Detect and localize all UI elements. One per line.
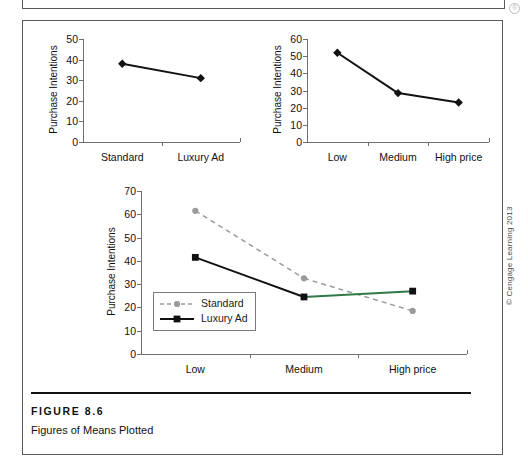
caption-divider xyxy=(31,392,471,394)
plot-area xyxy=(255,29,497,174)
data-point-marker xyxy=(174,316,181,323)
data-point-marker xyxy=(192,208,198,214)
legend-label: Standard xyxy=(201,296,244,311)
series-line-segment xyxy=(122,64,201,78)
series-line-segment xyxy=(195,211,304,279)
plot-area xyxy=(31,29,246,174)
legend-label: Luxury Ad xyxy=(201,311,248,326)
registered-mark-icon: ® xyxy=(509,3,520,14)
data-point-marker xyxy=(301,275,307,281)
previous-figure-box-edge xyxy=(22,0,505,9)
legend-item: Standard xyxy=(159,296,248,311)
figure-title: Figures of Means Plotted xyxy=(31,424,153,436)
data-point-marker xyxy=(197,74,205,82)
figure-box: Purchase Intentions01020304050StandardLu… xyxy=(22,20,503,455)
series-line-segment xyxy=(337,53,398,93)
data-point-marker xyxy=(301,294,308,301)
legend-item: Luxury Ad xyxy=(159,311,248,326)
legend-swatch xyxy=(159,297,195,310)
series-line-segment xyxy=(398,93,459,102)
data-point-marker xyxy=(174,301,180,307)
data-point-marker xyxy=(454,98,462,106)
series-line-segment xyxy=(195,257,304,297)
chart-ad-type: Purchase Intentions01020304050StandardLu… xyxy=(31,29,246,174)
data-point-marker xyxy=(409,288,416,295)
legend-swatch xyxy=(159,312,195,325)
data-point-marker xyxy=(118,60,126,68)
chart-legend: StandardLuxury Ad xyxy=(153,292,256,331)
plot-area xyxy=(85,179,485,394)
series-line-segment xyxy=(304,291,413,297)
figure-number: FIGURE 8.6 xyxy=(31,405,104,417)
copyright-notice: © Cengage Learning 2013 xyxy=(505,206,514,305)
data-point-marker xyxy=(192,254,199,261)
data-point-marker xyxy=(410,308,416,314)
chart-price: Purchase Intentions0102030405060LowMediu… xyxy=(255,29,497,174)
chart-interaction: Purchase Intentions010203040506070LowMed… xyxy=(85,179,485,394)
